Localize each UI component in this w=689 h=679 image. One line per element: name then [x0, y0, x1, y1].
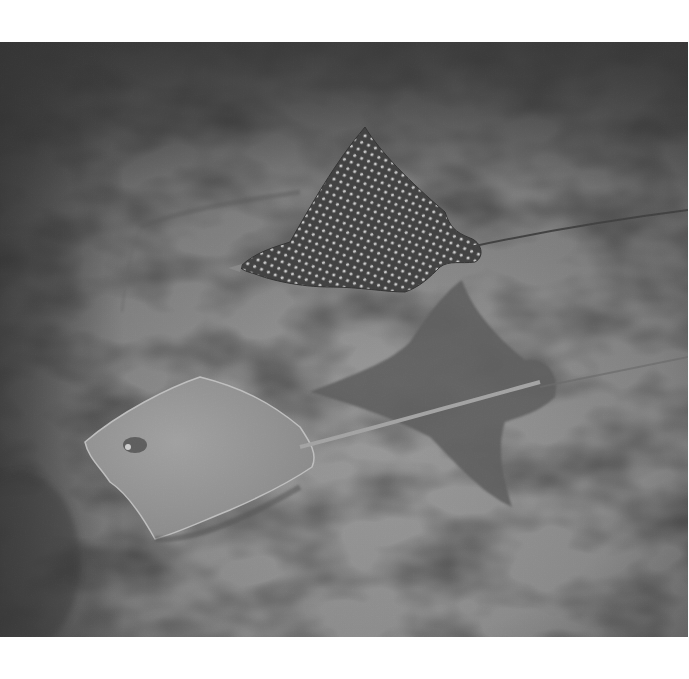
- photograph: Spotted eagle ray swimming above a sting…: [0, 42, 688, 637]
